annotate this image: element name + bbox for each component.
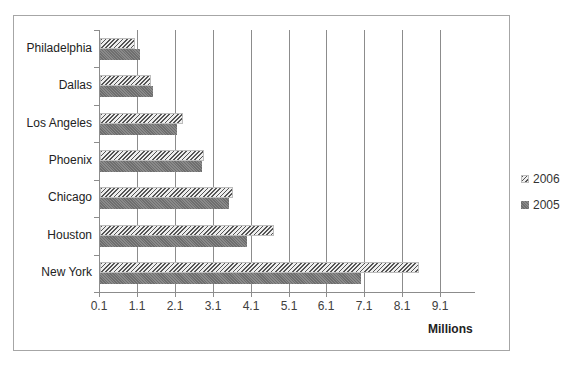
hatched-swatch-icon [521,175,529,183]
category-label: New York [0,265,92,279]
x-tick-label: 8.1 [382,299,422,313]
category-label: Chicago [0,190,92,204]
category-label: Los Angeles [0,116,92,130]
x-tick-label: 9.1 [420,299,460,313]
legend-item-2005: 2005 [521,192,560,218]
category-label: Phoenix [0,153,92,167]
bar-2006 [100,38,135,49]
bar-2005 [100,49,140,60]
bar-2006 [100,113,183,124]
legend: 2006 2005 [521,166,560,218]
y-tick [94,105,99,106]
bar-2005 [100,273,361,284]
y-tick [94,142,99,143]
category-label: Dallas [0,78,92,92]
x-tick-label: 4.1 [231,299,271,313]
y-tick [94,180,99,181]
bar-2005 [100,86,153,97]
gridline [213,30,214,292]
gridline [440,30,441,292]
bar-2006 [100,150,204,161]
gridline [402,30,403,292]
y-tick [94,255,99,256]
y-tick [94,292,99,293]
x-tick-label: 2.1 [155,299,195,313]
solid-swatch-icon [521,201,529,209]
y-tick [94,217,99,218]
legend-label: 2006 [533,172,560,186]
x-axis [99,292,475,293]
x-axis-title: Millions [428,322,473,336]
legend-label: 2005 [533,198,560,212]
bar-2006 [100,187,233,198]
x-tick-label: 6.1 [306,299,346,313]
gridline [251,30,252,292]
bar-2005 [100,198,229,209]
x-tick-label: 0.1 [79,299,119,313]
y-tick [94,67,99,68]
bar-2005 [100,124,177,135]
x-tick-label: 5.1 [269,299,309,313]
y-tick [94,30,99,31]
x-tick-label: 7.1 [344,299,384,313]
legend-item-2006: 2006 [521,166,560,192]
gridline [289,30,290,292]
bar-2005 [100,161,202,172]
gridline [326,30,327,292]
x-tick-label: 1.1 [117,299,157,313]
bar-2006 [100,262,419,273]
bar-2006 [100,75,151,86]
bar-2006 [100,225,274,236]
gridline [364,30,365,292]
x-tick-label: 3.1 [193,299,233,313]
category-label: Philadelphia [0,41,92,55]
category-label: Houston [0,228,92,242]
bar-2005 [100,236,247,247]
